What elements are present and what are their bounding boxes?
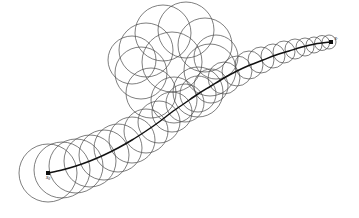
start-point-label-subscript: 0 xyxy=(48,177,50,181)
chain-of-balls-figure: x0x′ xyxy=(0,0,359,218)
diagram-canvas: x0x′ xyxy=(0,0,359,218)
endpoint-marker-end xyxy=(329,40,333,44)
